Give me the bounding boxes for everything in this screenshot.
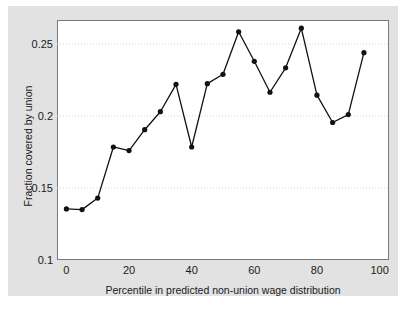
- data-point: [220, 72, 225, 77]
- x-tick-label: 20: [123, 264, 135, 276]
- x-tick-label: 60: [248, 264, 260, 276]
- data-point: [111, 144, 116, 149]
- data-point: [142, 127, 147, 132]
- y-axis-title-wrapper: Fraction covered by union: [0, 0, 1, 1]
- x-tick-label: 40: [186, 264, 198, 276]
- data-point: [79, 207, 84, 212]
- data-point: [126, 148, 131, 153]
- x-tick-label: 80: [311, 264, 323, 276]
- chart-figure: 0.10.150.20.25 020406080100 Percentile i…: [0, 0, 406, 315]
- data-point: [361, 50, 366, 55]
- data-point: [189, 144, 194, 149]
- data-point: [267, 90, 272, 95]
- data-point: [314, 93, 319, 98]
- data-point: [158, 109, 163, 114]
- data-point: [346, 112, 351, 117]
- data-point: [95, 195, 100, 200]
- y-tick-label: 0.1: [7, 254, 53, 266]
- data-point: [299, 26, 304, 31]
- x-tick-label: 0: [63, 264, 69, 276]
- data-point: [173, 82, 178, 87]
- data-line: [66, 28, 364, 209]
- line-chart-plot: [57, 20, 389, 260]
- data-point: [236, 29, 241, 34]
- data-point: [64, 206, 69, 211]
- y-axis-title: Fraction covered by union: [22, 56, 34, 236]
- x-tick-label: 100: [370, 264, 388, 276]
- y-tick-label: 0.25: [7, 38, 53, 50]
- data-point: [205, 81, 210, 86]
- x-axis-title: Percentile in predicted non-union wage d…: [57, 284, 389, 296]
- data-markers-group: [64, 26, 367, 213]
- data-point: [252, 59, 257, 64]
- data-point: [283, 65, 288, 70]
- data-point: [330, 120, 335, 125]
